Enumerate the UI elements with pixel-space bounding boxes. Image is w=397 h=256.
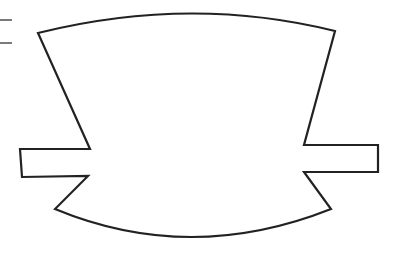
shape-diagram <box>0 0 397 256</box>
hat-outline-shape <box>20 13 378 237</box>
diagram-canvas <box>0 0 397 256</box>
